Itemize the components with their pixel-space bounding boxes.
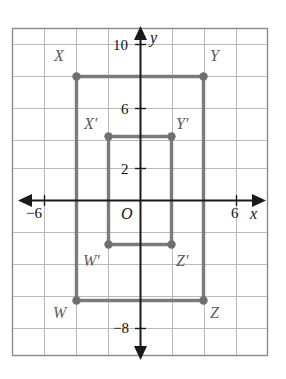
- point-label-x-prime: X′: [84, 116, 97, 132]
- y-tick-label-2: 2: [121, 162, 129, 177]
- y-tick-label-6: 6: [121, 102, 129, 117]
- point-label-z: Z: [210, 305, 219, 321]
- x-axis-label: x: [250, 206, 257, 222]
- vertex-dot-w: [72, 296, 80, 304]
- vertex-dot-x-prime: [104, 132, 112, 140]
- point-label-w: W: [53, 305, 66, 321]
- y-tick-label-neg8: −8: [113, 321, 129, 336]
- vertex-dot-x: [72, 72, 80, 80]
- figure-background: [0, 0, 286, 379]
- vertex-dot-y-prime: [167, 132, 175, 140]
- point-label-x: X: [54, 48, 64, 64]
- origin-label: O: [121, 206, 133, 222]
- x-tick-label-6: 6: [231, 206, 239, 221]
- vertex-dot-y: [199, 72, 207, 80]
- y-axis-label: y: [150, 30, 157, 46]
- coordinate-plane-figure: X Y Z W X′ Y′ Z′ W′ 10 6 2 −8 −6 6 O y x: [0, 0, 286, 379]
- x-tick-label-neg6: −6: [26, 206, 42, 221]
- y-tick-label-10: 10: [113, 38, 128, 53]
- point-label-y-prime: Y′: [176, 116, 188, 132]
- point-label-z-prime: Z′: [176, 253, 188, 269]
- point-label-y: Y: [210, 48, 219, 64]
- vertex-dot-z: [199, 296, 207, 304]
- coordinate-plane-svg: [0, 0, 286, 379]
- point-label-w-prime: W′: [83, 253, 100, 269]
- vertex-dot-w-prime: [104, 240, 112, 248]
- vertex-dot-z-prime: [167, 240, 175, 248]
